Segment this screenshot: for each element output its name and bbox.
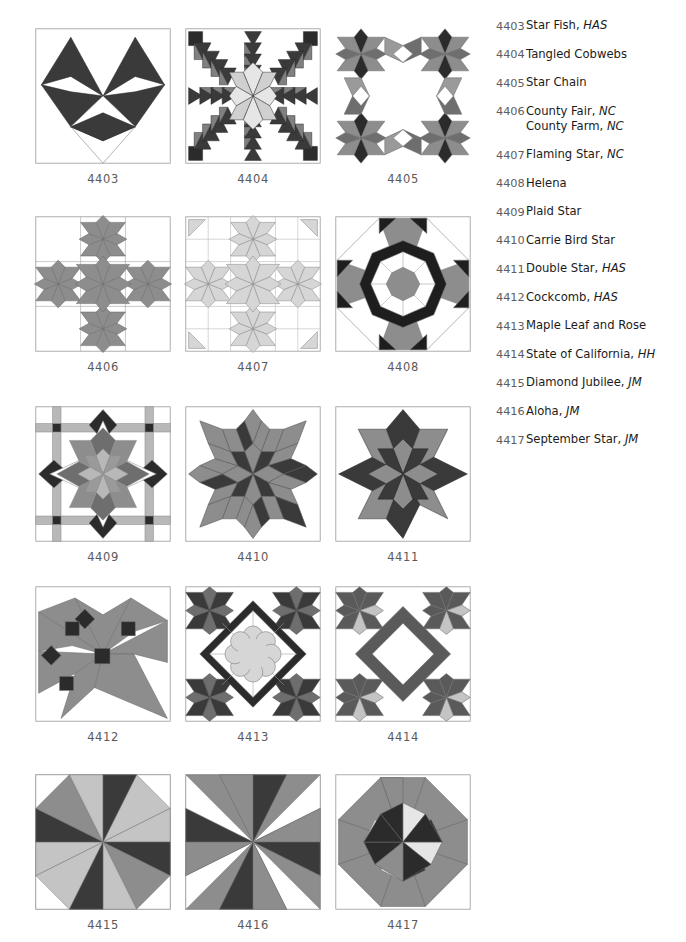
legend-name-title: Diamond Jubilee, <box>526 375 625 389</box>
legend-name: Cockcomb, HAS <box>526 290 686 306</box>
legend-number: 4411 <box>496 261 526 277</box>
legend-names: Star Chain <box>526 75 686 91</box>
legend-name-title: County Farm, <box>526 119 603 133</box>
legend-name-title: State of California, <box>526 347 634 361</box>
quilt-block-helena <box>333 214 473 354</box>
block-caption: 4413 <box>178 730 328 744</box>
block-caption: 4410 <box>178 550 328 564</box>
legend-name: Double Star, HAS <box>526 261 686 277</box>
legend-name: Flaming Star, NC <box>526 147 686 163</box>
quilt-block-grid: 4403 <box>0 0 490 942</box>
block-cell-4414[interactable]: 4414 <box>328 584 478 744</box>
block-caption: 4403 <box>28 172 178 186</box>
legend-names: Maple Leaf and Rose <box>526 318 686 334</box>
block-cell-4407[interactable]: 4407 <box>178 214 328 374</box>
legend-number: 4414 <box>496 347 526 363</box>
block-cell-4409[interactable]: 4409 <box>28 404 178 564</box>
legend-row[interactable]: 4406 County Fair, NC County Farm, NC <box>496 104 686 135</box>
legend-row[interactable]: 4414 State of California, HH <box>496 347 686 363</box>
legend-name-title: Plaid Star <box>526 204 581 218</box>
legend-number: 4407 <box>496 147 526 163</box>
legend-row[interactable]: 4415 Diamond Jubilee, JM <box>496 375 686 391</box>
quilt-block-cockcomb <box>33 584 173 724</box>
legend-row[interactable]: 4405 Star Chain <box>496 75 686 91</box>
legend-name-source: JM <box>628 375 641 389</box>
legend-name: Aloha, JM <box>526 404 686 420</box>
legend-name: Maple Leaf and Rose <box>526 318 686 334</box>
block-cell-4416[interactable]: 4416 <box>178 772 328 932</box>
block-cell-4406[interactable]: 4406 <box>28 214 178 374</box>
block-cell-4410[interactable]: 4410 <box>178 404 328 564</box>
block-cell-4404[interactable]: 4404 <box>178 26 328 186</box>
legend-row[interactable]: 4404 Tangled Cobwebs <box>496 47 686 63</box>
legend-name-source: HAS <box>583 18 607 32</box>
legend-name: Tangled Cobwebs <box>526 47 686 63</box>
block-cell-4415[interactable]: 4415 <box>28 772 178 932</box>
legend-number: 4405 <box>496 75 526 91</box>
legend-row[interactable]: 4417 September Star, JM <box>496 432 686 448</box>
block-caption: 4412 <box>28 730 178 744</box>
legend-name-title: Tangled Cobwebs <box>526 47 627 61</box>
legend-name: County Fair, NC <box>526 104 686 120</box>
legend-row[interactable]: 4407 Flaming Star, NC <box>496 147 686 163</box>
block-caption: 4408 <box>328 360 478 374</box>
legend-name: Star Fish, HAS <box>526 18 686 34</box>
quilt-block-plaid-star <box>33 404 173 544</box>
legend-names: Carrie Bird Star <box>526 233 686 249</box>
legend-names: Star Fish, HAS <box>526 18 686 34</box>
legend-row[interactable]: 4408 Helena <box>496 176 686 192</box>
block-cell-4408[interactable]: 4408 <box>328 214 478 374</box>
quilt-block-flaming-star <box>183 214 323 354</box>
block-cell-4403[interactable]: 4403 <box>28 26 178 186</box>
quilt-block-diamond-jubilee <box>33 772 173 912</box>
legend-number: 4412 <box>496 290 526 306</box>
block-name-legend: 4403 Star Fish, HAS 4404 Tangled Cobwebs… <box>496 18 686 461</box>
block-caption: 4411 <box>328 550 478 564</box>
legend-name: Star Chain <box>526 75 686 91</box>
legend-row[interactable]: 4409 Plaid Star <box>496 204 686 220</box>
legend-name: Helena <box>526 176 686 192</box>
quilt-block-star-fish <box>33 26 173 166</box>
legend-number: 4416 <box>496 404 526 420</box>
legend-row[interactable]: 4416 Aloha, JM <box>496 404 686 420</box>
legend-number: 4404 <box>496 47 526 63</box>
block-cell-4411[interactable]: 4411 <box>328 404 478 564</box>
legend-row[interactable]: 4411 Double Star, HAS <box>496 261 686 277</box>
block-cell-4405[interactable]: 4405 <box>328 26 478 186</box>
legend-name-title: Flaming Star, <box>526 147 603 161</box>
legend-names: Helena <box>526 176 686 192</box>
block-caption: 4407 <box>178 360 328 374</box>
block-cell-4412[interactable]: 4412 <box>28 584 178 744</box>
legend-name: September Star, JM <box>526 432 686 448</box>
legend-names: Tangled Cobwebs <box>526 47 686 63</box>
block-cell-4413[interactable]: 4413 <box>178 584 328 744</box>
legend-name-title: Cockcomb, <box>526 290 590 304</box>
block-caption: 4416 <box>178 918 328 932</box>
legend-names: Double Star, HAS <box>526 261 686 277</box>
legend-name: State of California, HH <box>526 347 686 363</box>
legend-number: 4406 <box>496 104 526 120</box>
legend-row[interactable]: 4410 Carrie Bird Star <box>496 233 686 249</box>
legend-number: 4413 <box>496 318 526 334</box>
legend-number: 4410 <box>496 233 526 249</box>
legend-number: 4417 <box>496 432 526 448</box>
legend-name-source: JM <box>625 432 638 446</box>
quilt-block-tangled-cobwebs <box>183 26 323 166</box>
legend-names: State of California, HH <box>526 347 686 363</box>
block-caption: 4406 <box>28 360 178 374</box>
legend-name: Carrie Bird Star <box>526 233 686 249</box>
block-caption: 4415 <box>28 918 178 932</box>
legend-names: Cockcomb, HAS <box>526 290 686 306</box>
legend-name-title: Aloha, <box>526 404 562 418</box>
quilt-block-maple-leaf-and-rose <box>183 584 323 724</box>
quilt-block-aloha <box>183 772 323 912</box>
quilt-block-september-star <box>333 772 473 912</box>
legend-row[interactable]: 4403 Star Fish, HAS <box>496 18 686 34</box>
legend-row[interactable]: 4412 Cockcomb, HAS <box>496 290 686 306</box>
legend-names: Aloha, JM <box>526 404 686 420</box>
legend-number: 4403 <box>496 18 526 34</box>
legend-row[interactable]: 4413 Maple Leaf and Rose <box>496 318 686 334</box>
legend-number: 4415 <box>496 375 526 391</box>
legend-name: Plaid Star <box>526 204 686 220</box>
block-cell-4417[interactable]: 4417 <box>328 772 478 932</box>
